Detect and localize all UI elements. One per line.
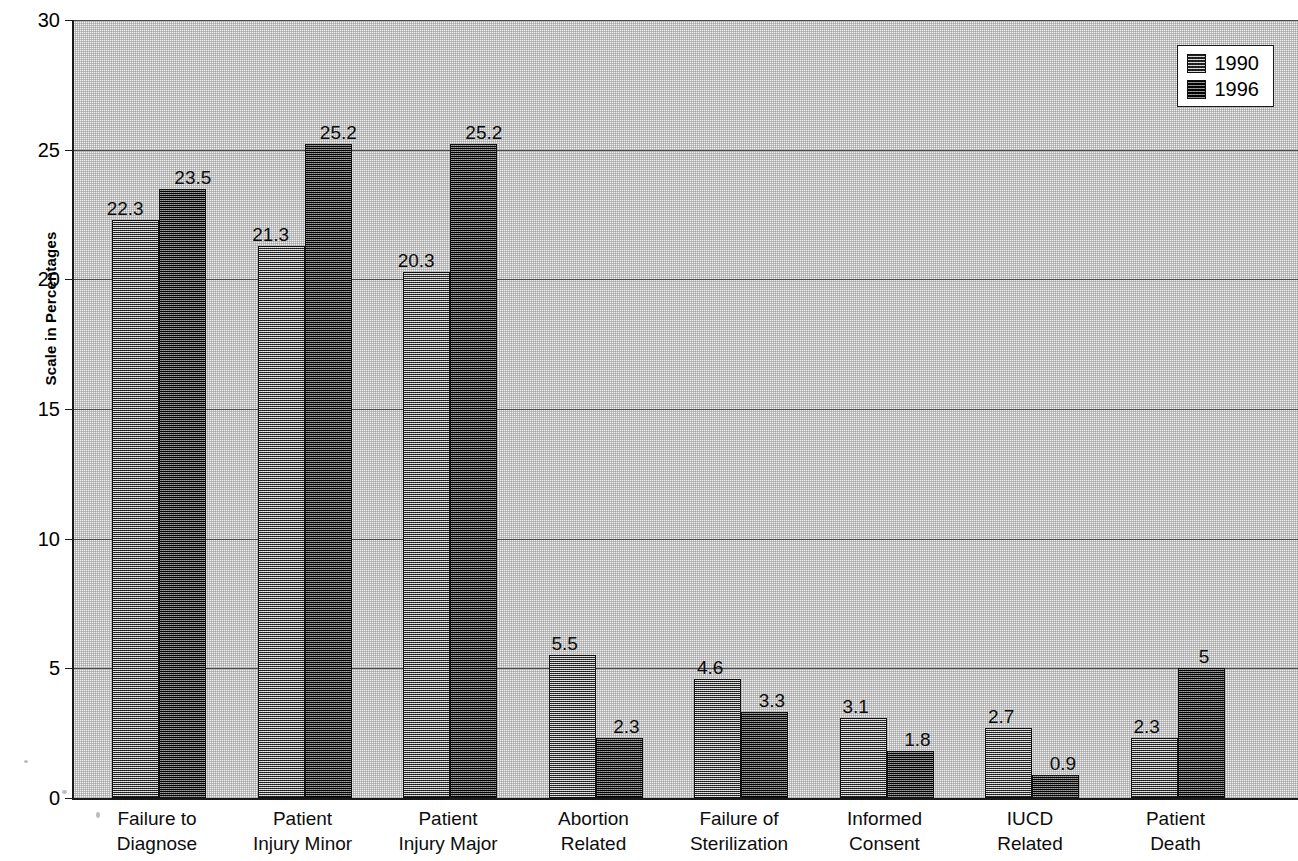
legend-label-1990: 1990 <box>1215 53 1260 73</box>
y-axis-tick-label: 10 <box>38 527 60 550</box>
y-axis-tick <box>65 668 74 669</box>
bar: 3.3 <box>741 712 788 798</box>
bar-value-label: 20.3 <box>398 251 435 270</box>
bar-value-label: 21.3 <box>252 225 289 244</box>
y-axis-title: Scale in Percentages <box>42 199 59 419</box>
bar: 3.1 <box>840 718 887 798</box>
bar-value-label: 22.3 <box>107 199 144 218</box>
y-axis-tick <box>65 409 74 410</box>
bar-value-label: 25.2 <box>320 123 357 142</box>
bar: 5.5 <box>549 655 596 798</box>
y-axis-tick <box>65 20 74 21</box>
legend-swatch-1990-icon <box>1187 54 1206 73</box>
x-axis-category-label: PatientDeath <box>1086 806 1266 856</box>
bar-value-label: 0.9 <box>1050 754 1076 773</box>
bar-value-label: 2.7 <box>988 707 1014 726</box>
bar-value-label: 1.8 <box>904 730 930 749</box>
bar: 22.3 <box>112 220 159 798</box>
y-axis-tick-label: 0 <box>49 787 60 810</box>
y-axis-tick-label: 30 <box>38 9 60 32</box>
y-axis-tick-label: 20 <box>38 268 60 291</box>
y-axis-tick-label: 5 <box>49 657 60 680</box>
bar: 2.3 <box>596 738 643 798</box>
scan-artifact <box>62 790 67 794</box>
gridline <box>74 150 1298 151</box>
bar: 0.9 <box>1032 775 1079 798</box>
y-axis-tick <box>65 798 74 799</box>
bar: 25.2 <box>305 144 352 798</box>
bar-value-label: 23.5 <box>174 168 211 187</box>
legend-item-1996: 1996 <box>1187 79 1260 99</box>
legend: 1990 1996 <box>1177 45 1275 107</box>
gridline <box>74 20 1298 21</box>
bar: 5 <box>1178 668 1225 798</box>
bar: 25.2 <box>450 144 497 798</box>
x-axis-label-line: Patient <box>1086 806 1266 831</box>
bar-value-label: 3.1 <box>842 697 868 716</box>
bar: 1.8 <box>887 751 934 798</box>
bar: 21.3 <box>258 246 305 798</box>
scan-artifact <box>24 760 28 763</box>
y-axis-tick-label: 15 <box>38 398 60 421</box>
x-axis-label-line: Death <box>1086 831 1266 856</box>
bar-value-label: 2.3 <box>613 717 639 736</box>
y-axis-tick <box>65 150 74 151</box>
bar-value-label: 5.5 <box>551 634 577 653</box>
plot-area: 05101520253022.323.521.325.220.325.25.52… <box>72 20 1298 800</box>
legend-swatch-1996-icon <box>1187 80 1206 99</box>
bar: 20.3 <box>403 272 450 798</box>
bar: 4.6 <box>694 679 741 798</box>
bar: 2.3 <box>1131 738 1178 798</box>
bar: 23.5 <box>159 189 206 798</box>
y-axis-tick-label: 25 <box>38 138 60 161</box>
bar-value-label: 2.3 <box>1133 717 1159 736</box>
bar-value-label: 4.6 <box>697 658 723 677</box>
bar-value-label: 25.2 <box>465 123 502 142</box>
legend-item-1990: 1990 <box>1187 53 1260 73</box>
y-axis-tick <box>65 279 74 280</box>
legend-label-1996: 1996 <box>1215 79 1260 99</box>
bar-value-label: 3.3 <box>759 691 785 710</box>
y-axis-tick <box>65 539 74 540</box>
scan-artifact <box>96 812 100 818</box>
bar-value-label: 5 <box>1199 647 1210 666</box>
bar: 2.7 <box>985 728 1032 798</box>
